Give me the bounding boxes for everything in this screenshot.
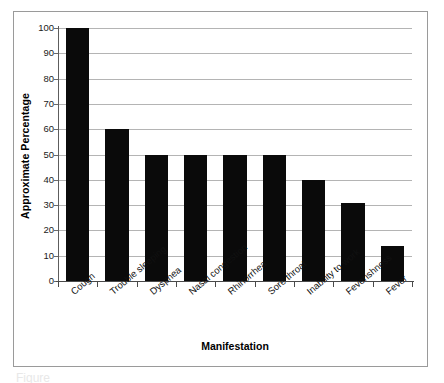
x-tick-mark — [176, 281, 177, 287]
plot-area — [58, 28, 412, 281]
x-tick-mark — [137, 281, 138, 287]
y-axis-tick-labels: 1009080706050403020100 — [30, 28, 54, 281]
bar — [105, 129, 129, 281]
gridline — [58, 104, 412, 105]
x-tick-mark — [97, 281, 98, 287]
x-tick-mark — [333, 281, 334, 287]
bar — [263, 155, 287, 282]
y-tick-label: 10 — [32, 251, 54, 261]
bar — [66, 28, 90, 281]
x-tick-mark — [373, 281, 374, 287]
gridline — [58, 28, 412, 29]
y-tick-label: 100 — [32, 23, 54, 33]
x-axis-category-labels: CoughTrouble sleepingDyspneaNasal conges… — [0, 287, 444, 339]
figure-container: Approximate Percentage 10090807060504030… — [0, 0, 444, 383]
y-tick-label: 90 — [32, 48, 54, 58]
y-tick-label: 50 — [32, 150, 54, 160]
x-axis-title: Manifestation — [58, 340, 412, 352]
gridline — [58, 79, 412, 80]
y-tick-label: 40 — [32, 175, 54, 185]
y-axis-line — [58, 26, 59, 283]
y-tick-label: 20 — [32, 225, 54, 235]
x-tick-mark — [215, 281, 216, 287]
y-tick-label: 30 — [32, 200, 54, 210]
gridline — [58, 53, 412, 54]
bar — [341, 203, 365, 281]
bar — [184, 155, 208, 282]
x-tick-mark — [255, 281, 256, 287]
y-tick-label: 80 — [32, 74, 54, 84]
y-tick-label: 70 — [32, 99, 54, 109]
x-tick-mark — [58, 281, 59, 287]
x-tick-mark — [294, 281, 295, 287]
x-tick-mark — [412, 281, 413, 287]
figure-caption: Figure — [16, 372, 428, 383]
y-tick-label: 0 — [32, 276, 54, 286]
y-tick-label: 60 — [32, 124, 54, 134]
